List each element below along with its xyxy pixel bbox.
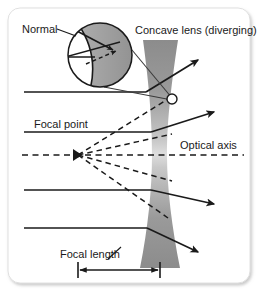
label-concave-lens: Concave lens (diverging): [135, 24, 257, 36]
optics-diagram: Normal Concave lens (diverging) Focal po…: [0, 0, 268, 299]
focal-point-dot: [74, 152, 79, 157]
label-optical-axis: Optical axis: [180, 139, 237, 151]
magnified-spot-marker: [167, 94, 177, 104]
figure-root: Normal Concave lens (diverging) Focal po…: [0, 0, 268, 299]
label-normal: Normal: [22, 23, 57, 35]
label-focal-point: Focal point: [34, 118, 88, 130]
label-focal-length: Focal length: [60, 248, 120, 260]
